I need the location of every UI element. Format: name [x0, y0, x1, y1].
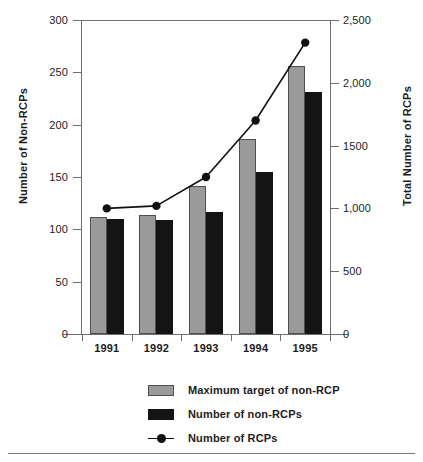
right-tick-mark [331, 83, 339, 84]
right-tick-mark [331, 208, 339, 209]
bar-actual-1995 [305, 92, 322, 334]
right-tick-label: 500 [343, 266, 387, 277]
bar-target-1992 [139, 215, 156, 334]
category-separator-tick [280, 334, 281, 341]
left-tick-mark [73, 20, 81, 21]
bar-target-1995 [288, 66, 305, 334]
bar-target-1991 [90, 217, 107, 334]
x-axis-baseline [63, 334, 349, 335]
left-tick-label: 200 [28, 120, 68, 131]
category-separator-tick [82, 334, 83, 341]
legend-label: Number of RCPs [188, 432, 278, 444]
right-tick-mark [331, 20, 339, 21]
right-axis-title: Total Number of RCPs [401, 56, 413, 236]
rcp-data-point-1992 [152, 202, 160, 210]
left-tick-label: 0 [28, 329, 68, 340]
rcp-data-point-1991 [103, 204, 111, 212]
right-tick-label: 1500 [343, 141, 387, 152]
left-tick-mark [73, 282, 81, 283]
right-tick-mark [331, 271, 339, 272]
right-tick-label: 2,500 [343, 15, 387, 26]
chart-legend: Maximum target of non-RCPNumber of non-R… [148, 378, 398, 450]
right-axis-line [330, 20, 331, 335]
right-tick-label: 0 [343, 329, 387, 340]
right-tick-label: 2,000 [343, 78, 387, 89]
bar-target-1993 [189, 186, 206, 334]
category-separator-tick [231, 334, 232, 341]
right-tick-mark [331, 146, 339, 147]
left-tick-mark [73, 229, 81, 230]
legend-item-0: Maximum target of non-RCP [148, 378, 398, 402]
left-tick-mark [73, 72, 81, 73]
bar-target-1994 [239, 139, 256, 334]
rcp-data-point-1993 [202, 173, 210, 181]
category-separator-tick [330, 334, 331, 341]
legend-swatch-icon [148, 409, 174, 420]
right-tick-mark [331, 334, 339, 335]
legend-item-2: Number of RCPs [148, 426, 398, 450]
bar-actual-1991 [107, 219, 124, 334]
category-separator-tick [181, 334, 182, 341]
legend-item-1: Number of non-RCPs [148, 402, 398, 426]
footer-rule [8, 453, 415, 454]
left-tick-label: 250 [28, 67, 68, 78]
left-tick-label: 50 [28, 277, 68, 288]
right-tick-label: 1,000 [343, 203, 387, 214]
bar-actual-1993 [206, 212, 223, 334]
left-tick-mark [73, 125, 81, 126]
rcp-data-point-1994 [251, 116, 259, 124]
legend-swatch-icon [148, 385, 174, 396]
bar-actual-1992 [156, 220, 173, 334]
legend-line-marker-icon [148, 433, 174, 444]
left-tick-label: 100 [28, 224, 68, 235]
chart-figure: Number of Non-RCPs Total Number of RCPs … [0, 0, 423, 462]
plot-area [82, 20, 330, 334]
left-tick-mark [73, 177, 81, 178]
left-tick-label: 150 [28, 172, 68, 183]
legend-label: Maximum target of non-RCP [188, 384, 340, 396]
category-separator-tick [132, 334, 133, 341]
rcp-data-point-1995 [301, 38, 309, 46]
rcp-line-path [107, 43, 305, 209]
left-axis-title: Number of Non-RCPs [17, 66, 29, 226]
left-tick-label: 300 [28, 15, 68, 26]
left-tick-mark [73, 334, 81, 335]
bar-actual-1994 [256, 172, 273, 334]
legend-label: Number of non-RCPs [188, 408, 302, 420]
x-axis-label-1995: 1995 [275, 342, 335, 354]
